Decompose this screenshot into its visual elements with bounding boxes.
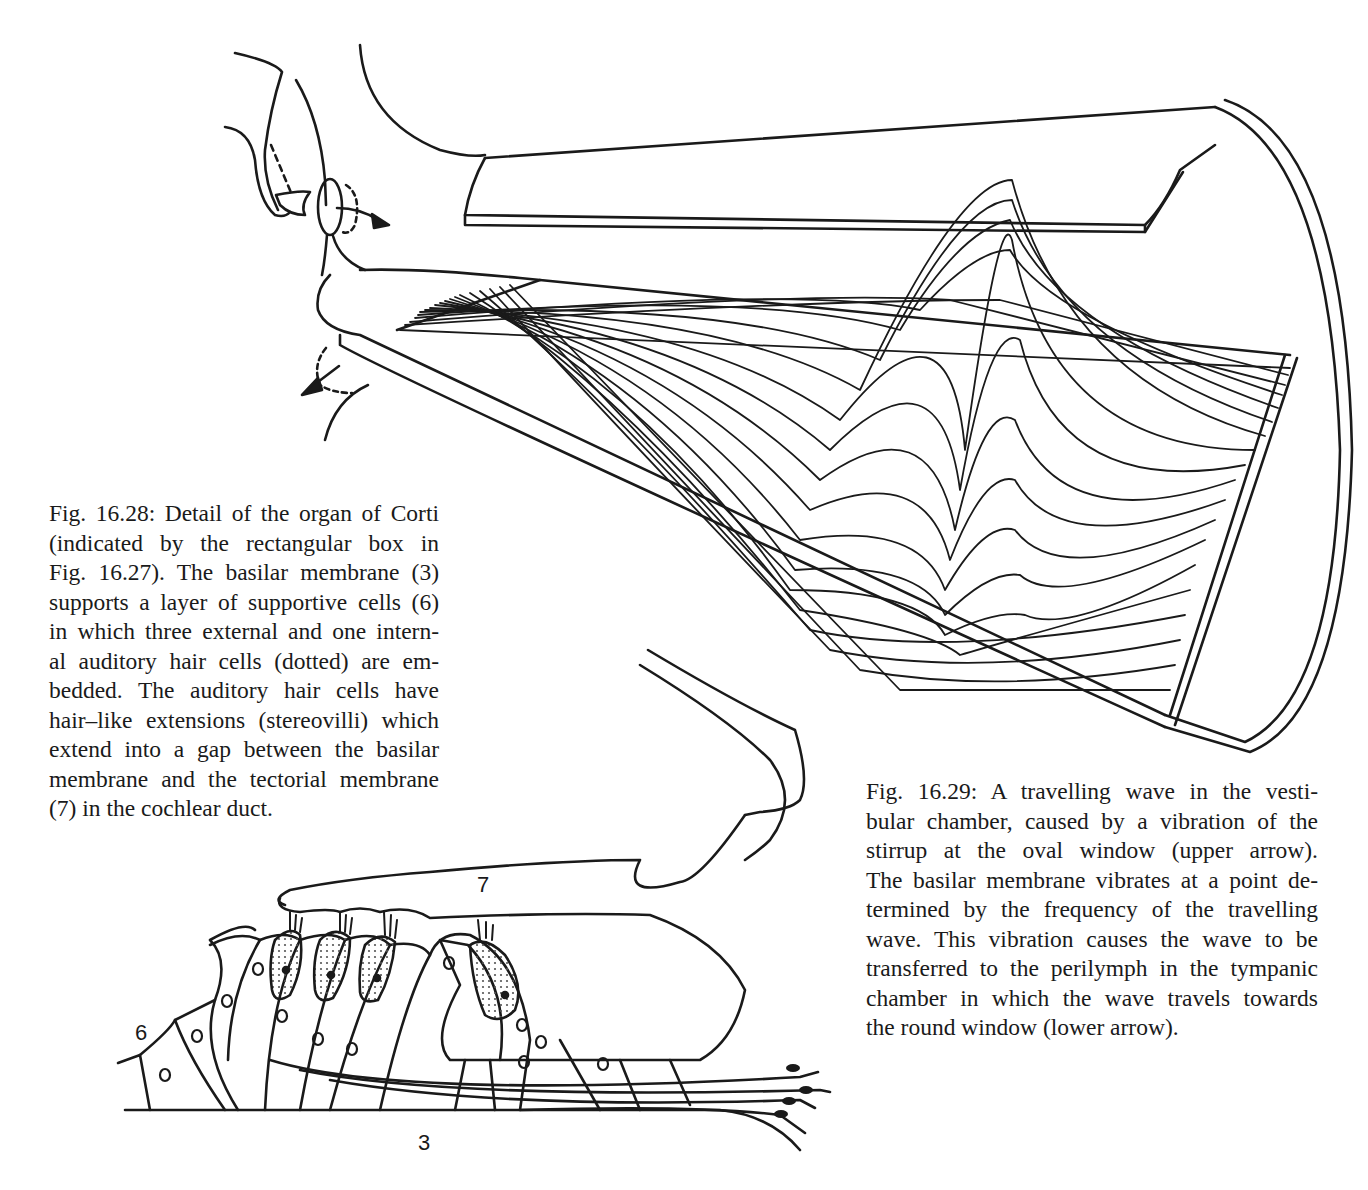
tectorial-membrane	[279, 898, 745, 1060]
caption-line: hair–like extensions (stereovilli) which	[49, 706, 439, 736]
caption-line: Fig. 16.27). The basilar membrane (3)	[49, 558, 439, 588]
caption-line: chamber in which the wave travels toward…	[866, 984, 1318, 1014]
nerve-fibers	[270, 1040, 830, 1133]
stapes-rest-dashed	[271, 145, 292, 195]
membrane-fibers	[400, 180, 1290, 690]
caption-line: bedded. The auditory hair cells have	[49, 676, 439, 706]
caption-fig-16-29: Fig. 16.29: A travelling wave in the ves…	[866, 777, 1318, 1043]
caption-line: membrane and the tectorial membrane	[49, 765, 439, 795]
caption-line: termined by the frequency of the travell…	[866, 895, 1318, 925]
caption-line: in which three external and one intern-	[49, 617, 439, 647]
tunnel-of-corti	[440, 940, 502, 1060]
caption-line: (7) in the cochlear duct.	[49, 794, 439, 824]
caption-line: extend into a gap between the basilar	[49, 735, 439, 765]
outer-hair-cell-3	[360, 937, 395, 1002]
nerve-endings	[774, 1064, 813, 1118]
caption-line: The basilar membrane vibrates at a point…	[866, 866, 1318, 896]
outer-hair-cell-1	[271, 931, 302, 999]
caption-line: al auditory hair cells (dotted) are em-	[49, 647, 439, 677]
basilar-membrane	[125, 1110, 800, 1150]
caption-line: Fig. 16.28: Detail of the organ of Corti	[49, 499, 439, 529]
caption-line: wave. This vibration causes the wave to …	[866, 925, 1318, 955]
inner-hair-cell	[470, 942, 518, 1019]
caption-line: the round window (lower arrow).	[866, 1013, 1318, 1043]
caption-fig-16-28: Fig. 16.28: Detail of the organ of Corti…	[49, 499, 439, 824]
cell-nuclei	[160, 957, 608, 1081]
caption-line: bular chamber, caused by a vibration of …	[866, 807, 1318, 837]
caption-line: Fig. 16.29: A travelling wave in the ves…	[866, 777, 1318, 807]
caption-line: (indicated by the rectangular box in	[49, 529, 439, 559]
label-tectorial-membrane: 7	[477, 872, 489, 897]
caption-line: supports a layer of supportive cells (6)	[49, 588, 439, 618]
stapes-icon	[276, 191, 310, 215]
caption-line: transferred to the perilymph in the tymp…	[866, 954, 1318, 984]
outer-hair-cell-2	[314, 932, 350, 1000]
caption-line: stirrup at the oval window (upper arrow)…	[866, 836, 1318, 866]
stereovilli	[290, 912, 493, 940]
label-supportive-cells: 6	[135, 1020, 147, 1045]
label-basilar-membrane: 3	[418, 1130, 430, 1155]
